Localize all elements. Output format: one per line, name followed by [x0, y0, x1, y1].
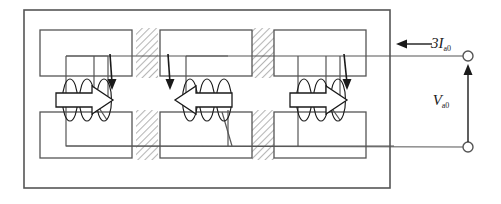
magnetic-circuit-diagram: 3Ia0 Va0: [0, 0, 501, 204]
limb-center-lower-yoke: [160, 112, 252, 158]
limb-left-upper-yoke: [40, 30, 132, 76]
limb-center-upper-yoke: [160, 30, 252, 76]
limb-right-upper-yoke: [274, 30, 366, 76]
hatch-gap-left-lower: [136, 110, 158, 160]
current-label-subscript: a0: [443, 44, 451, 53]
figure-canvas: 3Ia0 Va0: [0, 0, 501, 204]
hatch-gap-right-lower: [252, 110, 274, 160]
terminal-bottom[interactable]: [463, 142, 473, 152]
hatch-gap-right-upper: [252, 28, 274, 78]
limb-left-lower-yoke: [40, 112, 132, 158]
current-label-symbol: 3I: [430, 35, 445, 51]
voltage-label-subscript: a0: [442, 101, 450, 110]
terminal-top[interactable]: [463, 51, 473, 61]
hatch-gap-left-upper: [136, 28, 158, 78]
limb-right-lower-yoke: [274, 112, 366, 158]
